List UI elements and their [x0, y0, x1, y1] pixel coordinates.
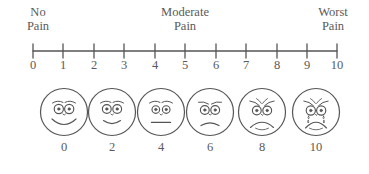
anchor-label-worst-pain: Worst Pain — [303, 5, 363, 33]
scale-number-4[interactable]: 4 — [144, 58, 166, 73]
anchor-moderate-pain-line2: Pain — [139, 19, 231, 33]
face-cell-4[interactable]: 4 — [133, 86, 189, 154]
faces-pain-scale-row: 0246810 — [0, 86, 369, 174]
face-crying-icon — [290, 86, 342, 138]
face-smiling-icon — [38, 86, 90, 138]
scale-number-9[interactable]: 9 — [296, 58, 318, 73]
face-distressed-icon — [236, 86, 288, 138]
face-number-2: 2 — [84, 140, 140, 154]
scale-axis-icon — [0, 38, 369, 60]
scale-number-7[interactable]: 7 — [235, 58, 257, 73]
scale-number-0[interactable]: 0 — [22, 58, 44, 73]
face-neutral-icon — [135, 86, 187, 138]
face-number-6: 6 — [182, 140, 238, 154]
anchor-moderate-pain-line1: Moderate — [161, 5, 209, 19]
face-number-10: 10 — [288, 140, 344, 154]
anchor-no-pain-line2: Pain — [8, 19, 68, 33]
face-slight-smile-icon — [86, 86, 138, 138]
face-cell-2[interactable]: 2 — [84, 86, 140, 154]
scale-number-10[interactable]: 10 — [326, 58, 348, 73]
scale-number-5[interactable]: 5 — [174, 58, 196, 73]
anchor-label-no-pain: No Pain — [8, 5, 68, 33]
scale-number-1[interactable]: 1 — [52, 58, 74, 73]
face-number-4: 4 — [133, 140, 189, 154]
face-cell-6[interactable]: 6 — [182, 86, 238, 154]
face-cell-8[interactable]: 8 — [234, 86, 290, 154]
scale-number-8[interactable]: 8 — [266, 58, 288, 73]
pain-rating-scale-figure: No Pain Moderate Pain Worst Pain 0123456… — [0, 0, 369, 174]
face-cell-10[interactable]: 10 — [288, 86, 344, 154]
scale-number-2[interactable]: 2 — [83, 58, 105, 73]
numeric-rating-scale[interactable]: 012345678910 — [0, 38, 369, 76]
anchor-worst-pain-line2: Pain — [303, 19, 363, 33]
scale-number-6[interactable]: 6 — [205, 58, 227, 73]
scale-number-3[interactable]: 3 — [113, 58, 135, 73]
face-slight-frown-icon — [184, 86, 236, 138]
anchor-label-moderate-pain: Moderate Pain — [139, 5, 231, 33]
anchor-worst-pain-line1: Worst — [318, 5, 348, 19]
anchor-no-pain-line1: No — [30, 5, 45, 19]
face-number-8: 8 — [234, 140, 290, 154]
